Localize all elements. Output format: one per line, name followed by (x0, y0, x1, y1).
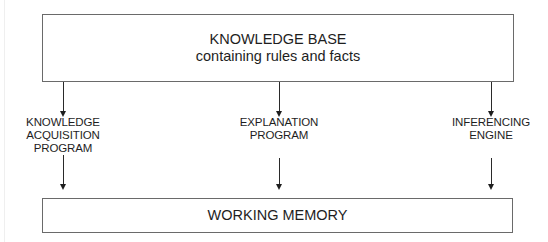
arrow-kb-to-explanation-line (279, 82, 280, 112)
arrow-acquisition-to-wm-line (63, 155, 64, 185)
arrow-inferencing-to-wm-head-icon (488, 184, 494, 190)
explanation-label-line-2: PROGRAM (219, 129, 339, 142)
arrow-acquisition-to-wm-head-icon (60, 184, 66, 190)
explanation-label-line-1: EXPLANATION (219, 116, 339, 129)
arrow-explanation-to-wm-head-icon (276, 184, 282, 190)
explanation-program-label: EXPLANATION PROGRAM (219, 116, 339, 142)
acquisition-label-line-1: KNOWLEDGE (3, 116, 123, 129)
inferencing-label-line-2: ENGINE (431, 129, 548, 142)
working-memory-title: WORKING MEMORY (208, 207, 348, 224)
arrow-kb-to-inferencing-line (491, 82, 492, 112)
arrow-kb-to-acquisition-line (63, 82, 64, 112)
arrow-inferencing-to-wm-line (491, 158, 492, 185)
working-memory-box: WORKING MEMORY (42, 198, 513, 233)
knowledge-base-box: KNOWLEDGE BASE containing rules and fact… (42, 14, 514, 82)
arrow-explanation-to-wm-line (279, 158, 280, 185)
acquisition-program-label: KNOWLEDGE ACQUISITION PROGRAM (3, 116, 123, 155)
acquisition-label-line-3: PROGRAM (3, 142, 123, 155)
knowledge-base-subtitle: containing rules and facts (196, 48, 360, 65)
inferencing-engine-label: INFERENCING ENGINE (431, 116, 548, 142)
acquisition-label-line-2: ACQUISITION (3, 129, 123, 142)
knowledge-base-title: KNOWLEDGE BASE (210, 31, 347, 48)
inferencing-label-line-1: INFERENCING (431, 116, 548, 129)
